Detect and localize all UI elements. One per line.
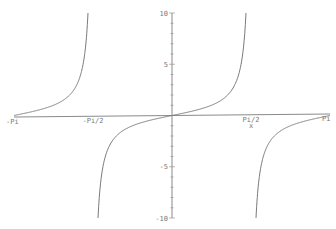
y-tick-label: 10: [160, 10, 168, 18]
tan-plot: -Pi-Pi/2Pi/2Pi 105-5-10 x: [0, 0, 336, 229]
y-tick-label: 5: [164, 61, 168, 69]
y-tick-label: -10: [155, 215, 168, 223]
tan-branch-curve: [256, 116, 330, 218]
x-axis-label: x: [249, 122, 253, 130]
x-tick-label: -Pi/2: [82, 117, 103, 125]
x-tick-label: -Pi: [6, 118, 19, 126]
tan-branch-curve: [14, 13, 88, 115]
y-tick-label: -5: [160, 163, 168, 171]
